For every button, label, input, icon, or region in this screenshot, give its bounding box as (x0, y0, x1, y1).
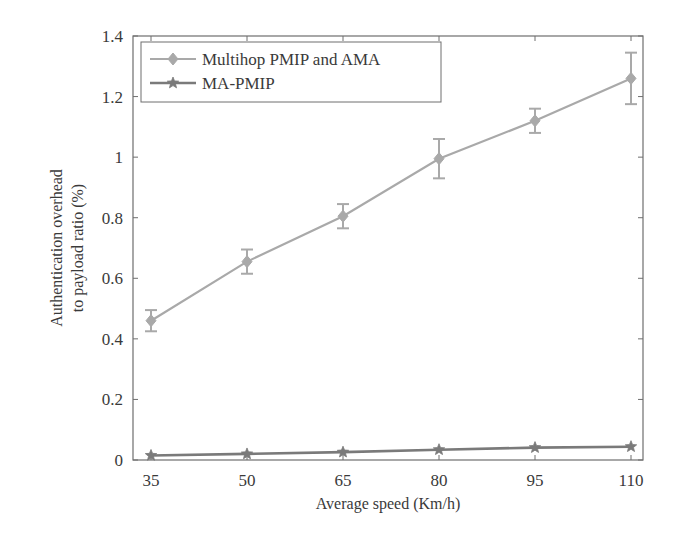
series-line (151, 447, 631, 456)
star-marker (433, 444, 444, 455)
y-tick-label: 1.4 (102, 27, 124, 46)
series-line (151, 78, 631, 320)
star-marker (529, 442, 540, 453)
legend-label: MA-PMIP (202, 74, 275, 93)
y-axis-title: Authentication overhead to payload ratio… (48, 169, 87, 327)
x-axis-title: Average speed (Km/h) (316, 495, 461, 513)
x-tick-label: 35 (143, 471, 160, 490)
x-tick-label: 110 (619, 471, 644, 490)
legend: Multihop PMIP and AMAMA-PMIP (141, 42, 441, 102)
y-axis-title-line1: Authentication overhead (48, 169, 65, 327)
y-axis-title-line2: to payload ratio (%) (69, 184, 87, 312)
y-tick-label: 1.2 (102, 88, 123, 107)
diamond-marker (242, 256, 252, 268)
y-tick-label: 1 (115, 148, 124, 167)
y-tick-label: 0.8 (102, 209, 123, 228)
line-chart: 3550658095110 00.20.40.60.811.21.4 Multi… (0, 0, 691, 550)
y-tick-label: 0.4 (102, 330, 124, 349)
y-tick-label: 0.2 (102, 390, 123, 409)
diamond-marker (338, 210, 348, 222)
x-tick-label: 95 (527, 471, 544, 490)
x-tick-label: 80 (431, 471, 448, 490)
legend-label: Multihop PMIP and AMA (202, 50, 381, 69)
y-tick-label: 0.6 (102, 269, 123, 288)
x-tick-label: 65 (335, 471, 352, 490)
series-layer (145, 53, 637, 461)
diamond-marker (626, 72, 636, 84)
diamond-marker (146, 315, 156, 327)
x-axis-ticks: 3550658095110 (143, 36, 644, 490)
diamond-marker (530, 115, 540, 127)
diamond-marker (434, 153, 444, 165)
y-tick-label: 0 (115, 451, 124, 470)
x-tick-label: 50 (239, 471, 256, 490)
series-ma-pmip (145, 441, 636, 461)
star-marker (625, 441, 636, 452)
